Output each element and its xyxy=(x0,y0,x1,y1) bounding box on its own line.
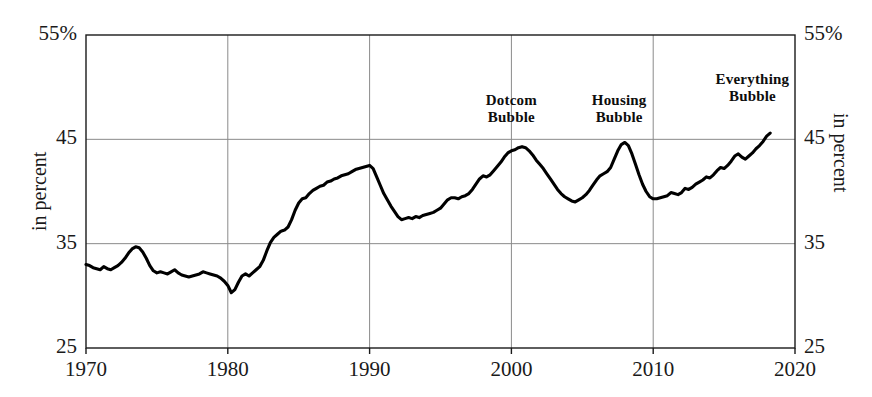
y-axis-tick-label-right-35: 35 xyxy=(804,230,825,255)
x-axis-tick-label-2010: 2010 xyxy=(608,357,698,382)
annotation-line-2: Bubble xyxy=(672,88,832,105)
annotation-line-2: Bubble xyxy=(539,109,699,126)
axis-tick-marks xyxy=(86,348,795,354)
chart-plot-area xyxy=(0,0,872,397)
y-axis-tick-label-left-55: 55% xyxy=(39,21,78,46)
annotation-everything-bubble: EverythingBubble xyxy=(672,71,832,105)
y-axis-title-left: in percent xyxy=(28,152,51,231)
y-axis-title-right: in percent xyxy=(829,113,852,192)
y-axis-tick-label-right-55: 55% xyxy=(804,21,843,46)
chart-container: 25354555%25354555%1970198019902000201020… xyxy=(0,0,872,397)
y-axis-tick-label-left-35: 35 xyxy=(56,230,77,255)
y-axis-tick-label-right-25: 25 xyxy=(804,334,825,359)
y-axis-tick-label-right-45: 45 xyxy=(804,125,825,150)
data-series-layer xyxy=(86,133,770,293)
x-axis-tick-label-2000: 2000 xyxy=(466,357,556,382)
y-axis-tick-label-left-25: 25 xyxy=(56,334,77,359)
x-axis-tick-label-1970: 1970 xyxy=(41,357,131,382)
y-axis-tick-label-left-45: 45 xyxy=(56,125,77,150)
x-axis-tick-label-1980: 1980 xyxy=(183,357,273,382)
x-axis-tick-label-2020: 2020 xyxy=(750,357,840,382)
x-axis-tick-label-1990: 1990 xyxy=(325,357,415,382)
annotation-line-1: Everything xyxy=(672,71,832,88)
